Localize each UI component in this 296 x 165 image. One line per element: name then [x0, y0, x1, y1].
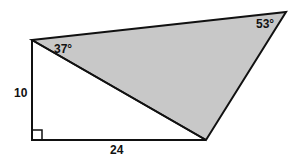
angle-label-53: 53° [256, 17, 274, 31]
side-label-10: 10 [14, 86, 28, 100]
angle-label-37: 37° [54, 42, 72, 56]
side-label-24: 24 [110, 143, 124, 157]
shaded-triangle [32, 12, 286, 140]
right-angle-marker [32, 130, 42, 140]
geometry-diagram: 37° 53° 10 24 [0, 0, 296, 165]
